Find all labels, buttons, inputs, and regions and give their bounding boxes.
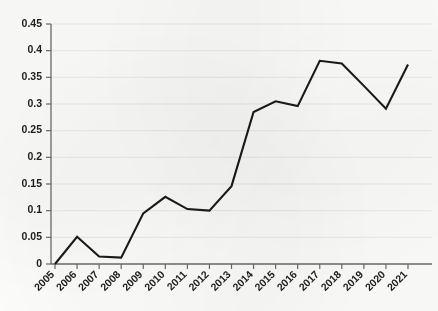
y-tick-label-0.45: 0.45 xyxy=(22,17,43,29)
line-chart: 00.050.10.150.20.250.30.350.40.45 200520… xyxy=(0,0,438,311)
y-tick-label-0.4: 0.4 xyxy=(27,43,42,55)
y-tick-label-0.25: 0.25 xyxy=(22,123,43,135)
y-tick-label-0.1: 0.1 xyxy=(27,203,42,215)
y-tick-label-0.15: 0.15 xyxy=(22,177,43,189)
y-tick-label-0: 0 xyxy=(36,257,42,269)
y-tick-label-0.35: 0.35 xyxy=(22,70,43,82)
y-tick-label-0.05: 0.05 xyxy=(22,230,43,242)
y-tick-label-0.3: 0.3 xyxy=(27,97,42,109)
chart-canvas: 00.050.10.150.20.250.30.350.40.45 200520… xyxy=(0,0,438,311)
y-tick-label-0.2: 0.2 xyxy=(27,150,42,162)
